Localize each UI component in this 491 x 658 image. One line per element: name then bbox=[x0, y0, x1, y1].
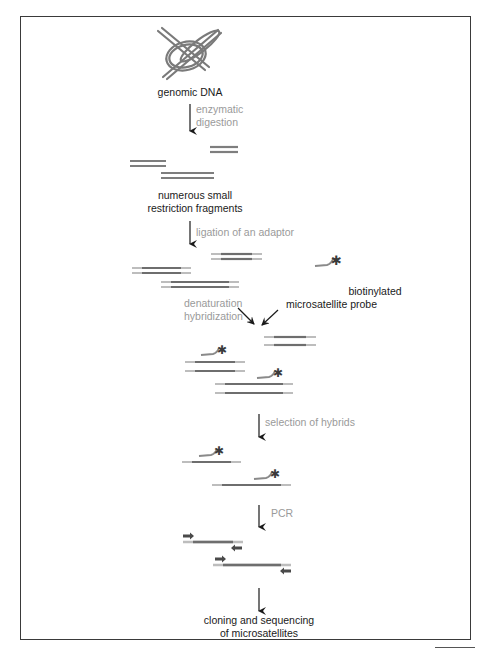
biotin-star-icon: ✱ bbox=[214, 444, 224, 458]
stage-label-genomic-dna: genomic DNA bbox=[150, 86, 230, 98]
selected-hybrids: ✱ ✱ bbox=[182, 444, 291, 485]
hybridization-mixture: ✱ ✱ bbox=[185, 337, 316, 393]
step-label-pcr: PCR bbox=[271, 507, 293, 519]
step-label-selection: selection of hybrids bbox=[265, 416, 355, 428]
stage-label-fragments-2: restriction fragments bbox=[135, 202, 255, 214]
stage-label-probe-2: microsatellite probe bbox=[286, 298, 377, 310]
biotin-star-icon: ✱ bbox=[331, 253, 342, 268]
stage-label-probe-1: biotinylated bbox=[330, 285, 420, 297]
pcr-amplification bbox=[183, 533, 291, 575]
stage-label-final-1: cloning and sequencing bbox=[199, 614, 319, 626]
restriction-fragments bbox=[130, 147, 238, 178]
biotin-star-icon: ✱ bbox=[270, 467, 280, 481]
stage-label-final-2: of microsatellites bbox=[199, 627, 319, 639]
step-label-hybridization-2: hybridization bbox=[184, 310, 243, 322]
primer-arrow-icon bbox=[183, 533, 291, 575]
step-label-ligation: ligation of an adaptor bbox=[196, 226, 294, 238]
step-label-digestion-1: enzymatic bbox=[196, 103, 243, 115]
workflow-diagram: ✱ ✱ ✱ ✱ ✱ bbox=[0, 0, 491, 658]
biotin-star-icon: ✱ bbox=[217, 343, 227, 357]
free-probe: ✱ bbox=[315, 253, 342, 268]
arrow-from-probe bbox=[262, 310, 278, 325]
adaptor-ligated-fragments bbox=[132, 254, 262, 287]
step-label-digestion-2: digestion bbox=[196, 116, 238, 128]
stage-label-fragments-1: numerous small bbox=[135, 189, 255, 201]
tangled-dna-icon bbox=[158, 26, 223, 79]
step-label-hybridization-1: denaturation bbox=[184, 297, 242, 309]
biotin-star-icon: ✱ bbox=[273, 366, 283, 380]
